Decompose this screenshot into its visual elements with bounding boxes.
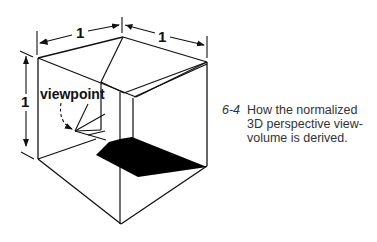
width-dimension-label: 1 — [76, 24, 84, 41]
viewpoint-label: viewpoint — [40, 86, 105, 102]
height-dimension-label: 1 — [21, 93, 29, 110]
outer-cube — [38, 37, 207, 224]
shadow-region — [96, 137, 207, 177]
viewpoint-pointer-arrow — [60, 103, 72, 129]
arrowhead-up-icon — [23, 56, 29, 64]
inner-frustum — [101, 37, 207, 224]
caption-line-3: volume is derived. — [247, 131, 377, 145]
arrowhead-left-icon — [40, 39, 48, 45]
arrowhead-left-icon — [126, 24, 133, 30]
caption-line-2: 3D perspective view- — [247, 117, 377, 131]
depth-dimension-label: 1 — [158, 28, 166, 45]
figure-number: 6-4 — [222, 103, 240, 117]
figure-caption: 6-4 How the normalized 3D perspective vi… — [247, 103, 377, 145]
caption-line-1: How the normalized — [247, 103, 377, 117]
